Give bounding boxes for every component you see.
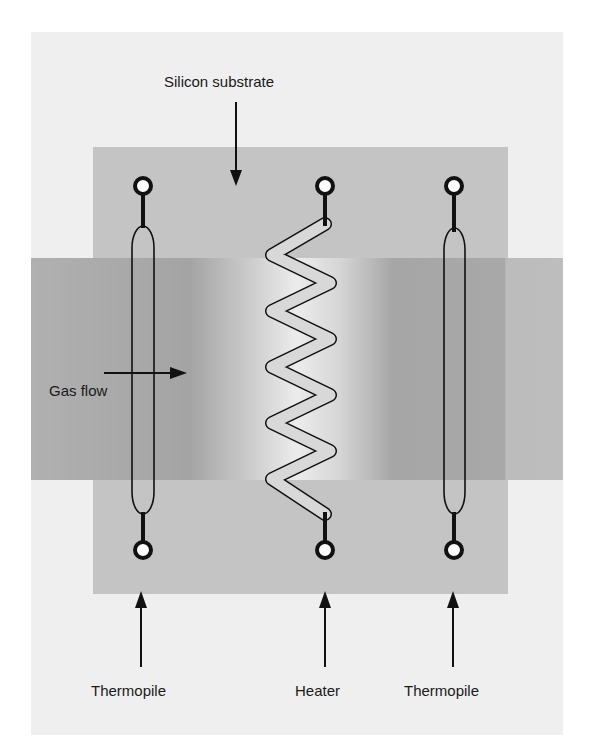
substrate-arrow-icon — [230, 102, 242, 186]
heater-label: Heater — [295, 682, 340, 699]
heater-arrow-icon — [319, 591, 331, 667]
left-top-pad-icon — [135, 178, 151, 194]
right-top-pad-icon — [446, 178, 462, 194]
gas-flow-label: Gas flow — [49, 382, 107, 399]
right-thermopile-arrow-icon — [447, 591, 459, 667]
substrate-label: Silicon substrate — [164, 73, 274, 90]
right-bottom-pad-icon — [446, 542, 462, 558]
flow-sensor-diagram — [0, 0, 591, 753]
left-thermopile-arrow-icon — [135, 591, 147, 667]
left-bottom-pad-icon — [135, 542, 151, 558]
right-thermopile-label: Thermopile — [404, 682, 479, 699]
left-thermopile-label: Thermopile — [91, 682, 166, 699]
heater-bottom-pad-icon — [317, 542, 333, 558]
heater-top-pad-icon — [317, 178, 333, 194]
